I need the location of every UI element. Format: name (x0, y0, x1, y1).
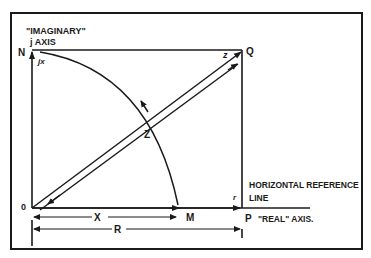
imaginary-axis-label: "IMAGINARY" (26, 26, 86, 36)
point-o-label: 0 (21, 202, 26, 212)
j-axis-label: j AXIS (29, 37, 56, 47)
arc-arrow (141, 101, 148, 112)
point-p-label: P (245, 213, 252, 224)
horizontal-reference-line-label: LINE (249, 193, 269, 203)
z-main-label: Z (144, 129, 150, 140)
z-parallel-line (40, 64, 238, 210)
z-vector-oq (32, 52, 241, 208)
r-dimension-label: R (114, 224, 122, 235)
real-axis-label: "REAL" AXIS. (258, 214, 313, 224)
impedance-diagram: "IMAGINARY" j AXIS N jx Q z Z r 0 M P X … (0, 0, 371, 258)
point-m-label: M (186, 212, 194, 223)
rotation-arc (40, 52, 178, 205)
jx-label: jx (37, 57, 45, 66)
r-small-label: r (233, 193, 237, 202)
point-q-label: Q (246, 46, 254, 57)
point-n-label: N (18, 47, 25, 58)
z-parallel-arrow (228, 64, 237, 70)
z-small-label: z (222, 50, 228, 60)
horizontal-reference-label: HORIZONTAL REFERENCE (249, 180, 359, 190)
x-dimension-label: X (94, 212, 101, 223)
z-return-arrow (48, 195, 60, 204)
